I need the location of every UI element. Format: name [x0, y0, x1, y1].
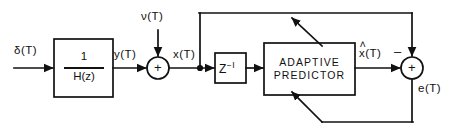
unit-delay-base: Z: [219, 62, 227, 76]
filter-fraction-bar: [64, 67, 104, 69]
label-unit-delay: Z−I: [219, 60, 235, 76]
label-adaptive-predictor-line1: ADAPTIVE: [264, 56, 355, 68]
filter-numerator: 1: [66, 50, 102, 63]
label-error-e: e(T): [418, 82, 441, 94]
wire-adapt-to-rail: [292, 18, 322, 46]
label-signal-y: y(T): [114, 48, 136, 60]
unit-delay-exponent: −I: [227, 60, 235, 70]
sum-error-minus-sign: –: [394, 44, 401, 59]
label-input-delta: δ(T): [14, 44, 37, 56]
label-signal-x: x(T): [173, 48, 195, 60]
block-diagram-figure: δ(T) 1 H(z) ν(T) y(T) + x(T) Z−I ADAPTIV…: [0, 0, 459, 136]
sum-noise-plus-sign: +: [154, 60, 162, 75]
sum-error-plus-sign: +: [408, 60, 416, 75]
label-noise-nu: ν(T): [141, 10, 163, 22]
label-signal-xhat: ˄x(T): [359, 47, 381, 59]
filter-denominator: H(z): [64, 70, 104, 83]
xhat-tail: (T): [365, 47, 381, 59]
xhat-hat-mark: ˄: [360, 40, 367, 48]
label-adaptive-predictor-line2: PREDICTOR: [264, 69, 355, 81]
wire-adapt-from-error: [292, 92, 322, 122]
